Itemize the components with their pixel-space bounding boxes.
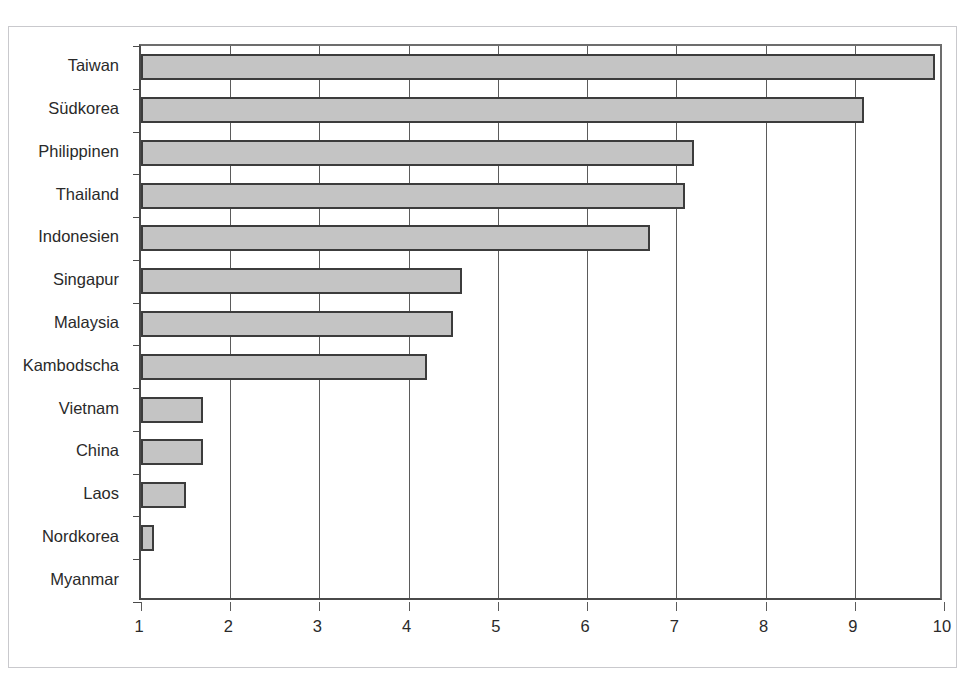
x-axis-tick <box>676 602 677 611</box>
x-axis-tick-label: 5 <box>491 617 500 636</box>
category-axis-labels: TaiwanSüdkoreaPhilippinenThailandIndones… <box>0 44 128 600</box>
bar <box>141 354 427 380</box>
y-axis-tick <box>133 89 141 90</box>
category-label: Südkorea <box>0 97 128 119</box>
category-label: Singapur <box>0 268 128 290</box>
y-axis-tick <box>133 174 141 175</box>
y-axis-tick <box>133 602 141 603</box>
bar <box>141 311 453 337</box>
category-label: Laos <box>0 482 128 504</box>
y-axis-tick <box>133 345 141 346</box>
category-label: Philippinen <box>0 140 128 162</box>
category-label: Kambodscha <box>0 354 128 376</box>
x-axis-tick-label: 8 <box>759 617 768 636</box>
x-axis-tick <box>498 602 499 611</box>
x-axis-tick-label: 4 <box>402 617 411 636</box>
x-axis-tick <box>319 602 320 611</box>
x-axis-tick-label: 6 <box>581 617 590 636</box>
y-axis-tick <box>133 260 141 261</box>
category-label: Myanmar <box>0 568 128 590</box>
x-axis-tick <box>855 602 856 611</box>
plot-area <box>139 44 942 600</box>
category-label: Malaysia <box>0 311 128 333</box>
bar <box>141 268 462 294</box>
gridline <box>498 46 499 598</box>
x-axis-tick <box>141 602 142 611</box>
bar <box>141 397 203 423</box>
gridline <box>855 46 856 598</box>
y-axis-tick <box>133 303 141 304</box>
category-label: China <box>0 439 128 461</box>
y-axis-tick <box>133 217 141 218</box>
category-label: Taiwan <box>0 54 128 76</box>
y-axis-tick <box>133 46 141 47</box>
gridline <box>766 46 767 598</box>
y-axis-tick <box>133 516 141 517</box>
x-axis-tick-label: 2 <box>224 617 233 636</box>
bar <box>141 183 685 209</box>
category-label: Thailand <box>0 183 128 205</box>
x-axis-tick <box>230 602 231 611</box>
x-axis-tick-label: 10 <box>933 617 951 636</box>
y-axis-tick <box>133 388 141 389</box>
x-axis-tick <box>409 602 410 611</box>
y-axis-tick <box>133 474 141 475</box>
gridline <box>676 46 677 598</box>
bar <box>141 525 154 551</box>
value-axis-tick-labels: 12345678910 <box>0 617 967 643</box>
x-axis-tick-label: 7 <box>670 617 679 636</box>
x-axis-tick <box>766 602 767 611</box>
x-axis-tick <box>587 602 588 611</box>
y-axis-tick <box>133 559 141 560</box>
category-label: Indonesien <box>0 225 128 247</box>
bar <box>141 54 935 80</box>
bar <box>141 140 694 166</box>
x-axis-tick <box>944 602 945 611</box>
horizontal-bar-chart: TaiwanSüdkoreaPhilippinenThailandIndones… <box>0 0 967 678</box>
bar <box>141 439 203 465</box>
x-axis-tick-label: 3 <box>313 617 322 636</box>
category-label: Nordkorea <box>0 525 128 547</box>
y-axis-tick <box>133 431 141 432</box>
bar <box>141 482 186 508</box>
gridline <box>587 46 588 598</box>
bar <box>141 97 864 123</box>
bar <box>141 225 650 251</box>
category-label: Vietnam <box>0 397 128 419</box>
x-axis-tick-label: 1 <box>134 617 143 636</box>
x-axis-tick-label: 9 <box>848 617 857 636</box>
y-axis-tick <box>133 132 141 133</box>
